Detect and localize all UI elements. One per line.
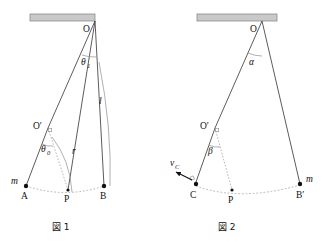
string-peg-to-a-figure1	[26, 128, 48, 186]
figure-2: O O′ α β v C m C P B′ 図 2	[170, 14, 313, 232]
label-radius-r-figure1: r	[72, 146, 76, 156]
point-b-prime-dot-figure2	[298, 182, 302, 186]
vertical-axis-figure2	[215, 21, 262, 128]
label-angle-beta-figure2: β	[207, 146, 213, 156]
physics-diagram-figure: O O′ θ 1 θ 0 l r m A P B 図 1	[0, 0, 334, 242]
angle-arc-alpha-figure2	[248, 53, 262, 56]
point-c-dot-figure2	[194, 182, 198, 186]
label-point-a-figure1: A	[21, 191, 28, 201]
figure-1: O O′ θ 1 θ 0 l r m A P B 図 1	[11, 14, 110, 232]
label-angle-theta1-subscript-figure1: 1	[87, 62, 90, 69]
swing-arc-dashed-figure1	[26, 186, 104, 193]
label-pivot-o-figure1: O	[83, 24, 90, 34]
label-angle-theta0-subscript-figure1: 0	[47, 149, 51, 156]
label-angle-theta0-figure1: θ	[41, 144, 46, 154]
label-point-p-figure2: P	[228, 195, 233, 205]
label-point-b-prime-figure2: B′	[296, 190, 304, 200]
point-b-dot-figure1	[102, 184, 106, 188]
vertical-axis-figure1	[68, 21, 95, 190]
string-to-peg-figure1	[48, 21, 95, 128]
label-point-c-figure2: C	[190, 190, 196, 200]
ceiling-bar-figure1	[30, 14, 95, 21]
caption-figure1: 図 1	[52, 222, 70, 232]
label-mass-m-figure2: m	[306, 174, 313, 184]
label-pivot-o-prime-figure2: O′	[200, 121, 209, 131]
label-length-l-figure1: l	[99, 96, 102, 106]
label-pivot-o-figure2: O	[250, 24, 257, 34]
velocity-arrow-figure2	[176, 172, 192, 180]
label-point-p-figure1: P	[64, 194, 69, 204]
label-angle-theta1-figure1: θ	[81, 57, 86, 67]
peg-vertical-dashed-figure2	[215, 128, 232, 190]
point-a-dot-figure1	[24, 184, 28, 188]
label-point-b-figure1: B	[100, 191, 106, 201]
ceiling-bar-figure2	[197, 14, 277, 21]
caption-figure2: 図 2	[218, 222, 236, 232]
point-p-dot-figure1	[66, 188, 69, 191]
label-mass-m-figure1: m	[11, 176, 18, 186]
label-velocity-vc-subscript-figure2: C	[175, 163, 180, 170]
point-p-dot-figure2	[230, 188, 233, 191]
swing-arc-dashed-figure2	[196, 185, 300, 194]
label-angle-alpha-figure2: α	[249, 57, 255, 67]
label-pivot-o-prime-figure1: O′	[33, 121, 42, 131]
string-to-b-prime-figure2	[262, 21, 300, 184]
